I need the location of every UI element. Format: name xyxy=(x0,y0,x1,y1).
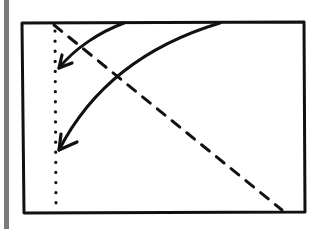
long-curved-arrow xyxy=(59,23,220,150)
dotted-vertical-line xyxy=(55,31,56,206)
short-curved-arrow xyxy=(59,23,124,68)
sketch-diagram xyxy=(0,0,325,229)
frame-rectangle xyxy=(22,22,305,213)
dashed-diagonal-line xyxy=(54,25,282,210)
